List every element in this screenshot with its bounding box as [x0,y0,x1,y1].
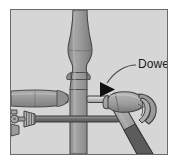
figure-root: Dowel [0,0,177,167]
horizontal-rail [11,90,69,107]
woodworking-illustration: Dowel [11,10,167,154]
callout-label: Dowel [138,57,167,71]
illustration-frame: Dowel [10,9,168,155]
